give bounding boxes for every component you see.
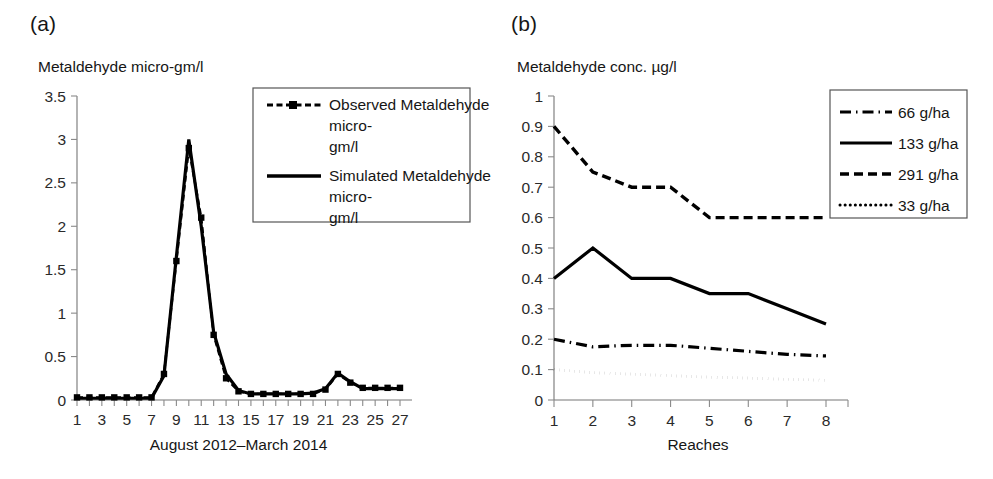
panel-a-legend-marker	[289, 101, 297, 109]
figure-container: (a) Metaldehyde micro-gm/l 00.511.522.53…	[0, 0, 993, 479]
panel-a-x-tick-label: 11	[193, 411, 209, 428]
panel-a-x-tick-label: 7	[147, 411, 156, 428]
panel-b-x-tick-label: 8	[822, 412, 831, 429]
panel-b-series-2	[554, 126, 826, 217]
panel-a-x-tick-label: 27	[391, 411, 408, 428]
panel-b-y-tick-label: 0.3	[521, 300, 543, 317]
panel-a-x-tick-label: 5	[122, 411, 131, 428]
panel-a-y-tick-label: 1	[57, 305, 66, 322]
panel-b-series-3	[554, 370, 826, 381]
panel-b-y-tick-label: 0.9	[521, 118, 543, 135]
panel-b-y-tick-label: 0.2	[521, 331, 543, 348]
panel-b-y-tick-label: 0	[534, 392, 543, 409]
panel-b-legend-label: 66 g/ha	[898, 104, 950, 121]
panel-b-y-tick-label: 0.4	[521, 270, 543, 287]
panel-a-plot: 00.511.522.533.513579111315171921232527A…	[0, 0, 496, 479]
panel-a-legend-label: micro-	[329, 117, 372, 134]
panel-b-x-tick-label: 4	[666, 412, 675, 429]
chart-panel-b: (b) Metaldehyde conc. µg/l 00.10.20.30.4…	[496, 0, 993, 479]
panel-a-y-tick-label: 2.5	[44, 174, 66, 191]
panel-a-x-tick-label: 17	[267, 411, 284, 428]
panel-b-x-tick-label: 3	[627, 412, 636, 429]
panel-a-legend-label: Simulated Metaldehyde	[329, 167, 491, 184]
panel-b-x-tick-label: 6	[744, 412, 753, 429]
panel-a-x-tick-label: 9	[172, 411, 181, 428]
panel-a-x-tick-label: 19	[292, 411, 309, 428]
panel-a-y-tick-label: 0.5	[44, 348, 66, 365]
chart-panel-a: (a) Metaldehyde micro-gm/l 00.511.522.53…	[0, 0, 496, 479]
panel-a-y-tick-label: 1.5	[44, 261, 66, 278]
panel-a-y-tick-label: 3	[57, 131, 66, 148]
panel-a-legend-label: gm/l	[329, 138, 358, 155]
panel-a-x-tick-label: 3	[98, 411, 107, 428]
panel-a-y-tick-label: 2	[57, 218, 66, 235]
panel-a-x-tick-label: 13	[217, 411, 234, 428]
panel-a-legend-label: Observed Metaldehyde	[329, 96, 489, 113]
panel-a-legend-label: gm/l	[329, 209, 358, 226]
panel-b-y-tick-label: 0.5	[521, 240, 543, 257]
panel-b-x-tick-label: 2	[589, 412, 598, 429]
panel-a-y-tick-label: 0	[57, 392, 66, 409]
panel-b-y-tick-label: 0.6	[521, 209, 543, 226]
panel-a-x-tick-label: 15	[242, 411, 259, 428]
panel-a-x-tick-label: 21	[317, 411, 334, 428]
panel-a-x-tick-label: 25	[367, 411, 384, 428]
panel-b-x-axis-title: Reaches	[667, 436, 728, 453]
panel-a-x-tick-label: 1	[73, 411, 82, 428]
panel-b-y-tick-label: 1	[534, 88, 543, 105]
panel-a-x-axis-title: August 2012–March 2014	[150, 436, 328, 453]
panel-b-x-tick-label: 1	[550, 412, 559, 429]
panel-a-legend-label: micro-	[329, 188, 372, 205]
panel-a-y-tick-label: 3.5	[44, 88, 66, 105]
panel-b-legend-label: 291 g/ha	[898, 166, 959, 183]
panel-b-x-tick-label: 5	[705, 412, 714, 429]
panel-b-legend-label: 33 g/ha	[898, 197, 950, 214]
panel-b-y-tick-label: 0.8	[521, 148, 543, 165]
panel-b-series-1	[554, 248, 826, 324]
panel-b-series-0	[554, 339, 826, 356]
panel-a-x-tick-label: 23	[342, 411, 359, 428]
panel-b-y-tick-label: 0.1	[521, 361, 543, 378]
panel-b-legend-label: 133 g/ha	[898, 135, 959, 152]
panel-b-plot: 00.10.20.30.40.50.60.70.80.9112345678Rea…	[496, 0, 993, 479]
panel-b-x-tick-label: 7	[783, 412, 792, 429]
panel-b-y-tick-label: 0.7	[521, 179, 543, 196]
